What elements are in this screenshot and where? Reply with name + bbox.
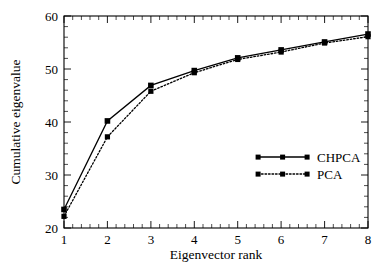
data-point-marker xyxy=(322,40,327,45)
data-point-marker xyxy=(105,134,110,139)
figure-container: 20 30 40 50 60 1 2 3 4 5 6 7 8 Eigenvect… xyxy=(0,0,385,264)
series-chpca xyxy=(61,31,371,212)
legend-label-chpca: CHPCA xyxy=(317,150,361,165)
y-tick-label: 20 xyxy=(45,221,58,236)
data-point-marker xyxy=(235,57,240,62)
x-axis-tick-labels: 1 2 3 4 5 6 7 8 xyxy=(61,232,372,247)
legend-marker-pca xyxy=(256,172,261,177)
x-tick-label: 5 xyxy=(234,232,241,247)
series-pca-markers xyxy=(61,34,370,219)
y-tick-label: 60 xyxy=(45,9,58,24)
legend-marker-chpca xyxy=(305,155,310,160)
data-point-marker xyxy=(105,118,111,124)
y-tick-label: 30 xyxy=(45,168,58,183)
series-pca xyxy=(61,34,370,219)
data-point-marker xyxy=(148,89,153,94)
data-point-marker xyxy=(365,34,370,39)
legend-item-chpca[interactable]: CHPCA xyxy=(256,150,361,165)
x-tick-label: 6 xyxy=(278,232,285,247)
data-point-marker xyxy=(61,207,67,213)
legend-marker-chpca xyxy=(256,155,261,160)
series-chpca-markers xyxy=(61,31,371,212)
x-tick-label: 7 xyxy=(321,232,328,247)
legend-marker-pca xyxy=(280,172,285,177)
legend-marker-pca xyxy=(305,172,310,177)
data-point-marker xyxy=(61,214,66,219)
x-tick-label: 3 xyxy=(148,232,155,247)
legend: CHPCA PCA xyxy=(256,150,361,182)
x-tick-label: 1 xyxy=(61,232,68,247)
x-tick-label: 8 xyxy=(365,232,372,247)
x-tick-label: 2 xyxy=(104,232,111,247)
legend-label-pca: PCA xyxy=(317,167,343,182)
y-tick-label: 40 xyxy=(45,115,58,130)
x-axis-title: Eigenvector rank xyxy=(170,247,263,262)
line-chart: 20 30 40 50 60 1 2 3 4 5 6 7 8 Eigenvect… xyxy=(0,0,385,264)
y-tick-label: 50 xyxy=(45,62,58,77)
y-axis-title: Cumulative eigenvalue xyxy=(8,60,23,185)
legend-item-pca[interactable]: PCA xyxy=(256,167,343,182)
data-point-marker xyxy=(192,70,197,75)
legend-marker-chpca xyxy=(280,155,285,160)
data-point-marker xyxy=(279,49,284,54)
x-tick-label: 4 xyxy=(191,232,198,247)
y-axis-tick-labels: 20 30 40 50 60 xyxy=(45,9,58,236)
x-axis-minor-ticks xyxy=(73,16,360,228)
data-point-marker xyxy=(148,83,154,89)
